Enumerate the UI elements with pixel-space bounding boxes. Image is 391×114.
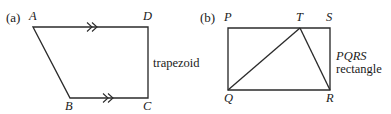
- rectangle-caption-name: PQRS: [335, 49, 367, 63]
- rectangle-caption-kind: rectangle: [336, 62, 382, 76]
- panel-b-group: (b) P T S R Q PQRS rectangle: [200, 10, 382, 105]
- segment-qt: [228, 28, 300, 90]
- vertex-label-p: P: [223, 10, 232, 24]
- segment-tr: [300, 28, 330, 90]
- geometry-figure-canvas: (a) A D C B trapezoid (b) P: [0, 0, 391, 114]
- vertex-label-t: T: [296, 10, 304, 24]
- panel-a-part-label: (a): [6, 10, 20, 25]
- panel-b-part-label: (b): [200, 10, 215, 25]
- trapezoid-caption: trapezoid: [153, 56, 200, 70]
- vertex-label-q: Q: [224, 91, 233, 105]
- vertex-label-b: B: [65, 99, 73, 113]
- trapezoid-abcd-outline: [33, 27, 148, 98]
- vertex-label-d: D: [142, 9, 152, 23]
- panel-a-group: (a) A D C B trapezoid: [6, 9, 200, 113]
- vertex-label-s: S: [326, 10, 333, 24]
- vertex-label-c: C: [143, 99, 152, 113]
- vertex-label-r: R: [325, 91, 334, 105]
- geometry-figure-sheet: (a) A D C B trapezoid (b) P: [0, 0, 391, 114]
- vertex-label-a: A: [28, 9, 37, 23]
